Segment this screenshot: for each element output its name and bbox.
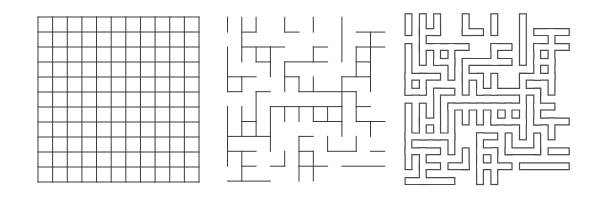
outline-wall-fills [409,17,566,181]
maze-outline-diagram [0,0,611,205]
outline-wall-strokes [409,17,566,181]
